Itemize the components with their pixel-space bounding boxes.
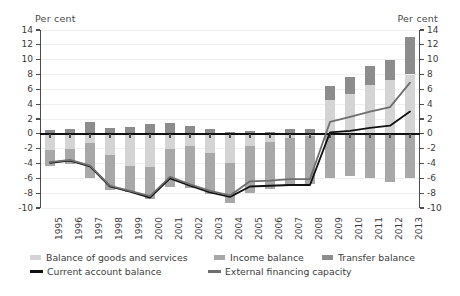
x-tick [309, 134, 310, 138]
x-tick [189, 134, 190, 138]
bar-segment [325, 134, 335, 179]
y-tick-label-left: 10 [22, 55, 33, 64]
x-tick-label: 2007 [295, 217, 304, 240]
x-tick [109, 134, 110, 138]
legend-color-swatch-icon [30, 255, 41, 260]
y-tick-label-left: -6 [24, 174, 33, 183]
x-tick-label: 2002 [195, 217, 204, 240]
bar-segment [365, 66, 375, 85]
bar-segment [185, 146, 195, 188]
bar-segment [105, 155, 115, 191]
x-tick-label: 2010 [355, 217, 364, 240]
legend-row: Current account balanceExternal financin… [0, 266, 460, 279]
bar-segment [345, 94, 355, 134]
bar-group [125, 30, 135, 208]
x-tick-label: 1995 [55, 217, 64, 240]
bar-segment [325, 86, 335, 101]
bar-group [185, 30, 195, 208]
bar-segment [365, 134, 375, 179]
bar-group [65, 30, 75, 208]
bar-group [245, 30, 255, 208]
bar-segment [165, 149, 175, 187]
bar-segment [85, 143, 95, 179]
x-tick [409, 134, 410, 138]
legend-item[interactable]: Current account balance [30, 266, 161, 277]
x-tick-label: 2000 [155, 217, 164, 240]
x-tick [69, 134, 70, 138]
bar-segment [85, 122, 95, 134]
y-tick-label-right: 14 [427, 26, 438, 35]
y-tick-right [420, 207, 424, 208]
y-tick-label-left: 6 [27, 85, 33, 94]
x-tick-label: 2009 [335, 217, 344, 240]
bar-segment [385, 134, 395, 182]
y-tick-label-right: 10 [427, 55, 438, 64]
bar-segment [385, 80, 395, 133]
y-tick-label-right: 8 [427, 70, 433, 79]
x-tick-label: 2001 [175, 217, 184, 240]
legend-item[interactable]: Balance of goods and services [30, 252, 188, 263]
x-tick [129, 134, 130, 138]
y-tick-label-left: 4 [27, 100, 33, 109]
bar-group [205, 30, 215, 208]
bar-group [345, 30, 355, 208]
y-tick-right [420, 29, 424, 30]
y-axis-title-right: Per cent [397, 13, 438, 24]
x-tick [249, 134, 250, 138]
x-tick [269, 134, 270, 138]
y-tick-right [420, 104, 424, 105]
x-tick [289, 134, 290, 138]
bar-group [225, 30, 235, 208]
bar-segment [365, 85, 375, 134]
bar-segment [325, 100, 335, 133]
y-tick-label-right: 2 [427, 115, 433, 124]
legend-item[interactable]: Income balance [214, 252, 304, 263]
y-tick-label-left: 14 [22, 26, 33, 35]
bar-segment [65, 149, 75, 165]
legend-item[interactable]: Transfer balance [322, 252, 415, 263]
bar-segment [145, 134, 155, 167]
y-tick-label-left: -2 [24, 144, 33, 153]
x-tick [229, 134, 230, 138]
bar-segment [405, 134, 415, 179]
y-tick-right [420, 193, 424, 194]
y-tick-label-right: -4 [427, 159, 436, 168]
x-tick-label: 2004 [235, 217, 244, 240]
y-tick-right [420, 148, 424, 149]
legend-item[interactable]: External financing capacity [208, 266, 352, 277]
bar-segment [265, 142, 275, 189]
chart-figure: Per cent Per cent -10-10-8-8-6-6-4-4-2-2… [0, 0, 460, 296]
x-tick-label: 1998 [115, 217, 124, 240]
bar-segment [245, 146, 255, 193]
legend-label: Transfer balance [338, 252, 415, 263]
bar-segment [225, 163, 235, 203]
bar-group [305, 30, 315, 208]
x-tick-label: 2006 [275, 217, 284, 240]
y-tick-label-left: 0 [27, 129, 33, 138]
bar-segment [345, 77, 355, 94]
y-tick-label-right: 12 [427, 40, 438, 49]
y-tick-label-left: -4 [24, 159, 33, 168]
legend-label: Current account balance [47, 266, 161, 277]
y-tick-right [420, 44, 424, 45]
x-tick-label: 2003 [215, 217, 224, 240]
legend-label: Income balance [230, 252, 304, 263]
x-tick-label: 2005 [255, 217, 264, 240]
y-axis-left-line [40, 30, 41, 208]
bar-segment [45, 150, 55, 166]
y-axis-title-left: Per cent [35, 13, 76, 24]
y-tick-label-left: -8 [24, 189, 33, 198]
y-tick-label-right: 6 [427, 85, 433, 94]
y-tick-right [420, 133, 424, 134]
x-tick [49, 134, 50, 138]
y-tick-right [420, 74, 424, 75]
x-tick [89, 134, 90, 138]
bar-segment [345, 134, 355, 176]
legend-line-swatch-icon [208, 270, 221, 272]
bar-segment [405, 37, 415, 74]
legend-color-swatch-icon [322, 255, 333, 260]
y-tick-right [420, 59, 424, 60]
x-tick [209, 134, 210, 138]
x-tick [149, 134, 150, 138]
x-tick-label: 1997 [95, 217, 104, 240]
